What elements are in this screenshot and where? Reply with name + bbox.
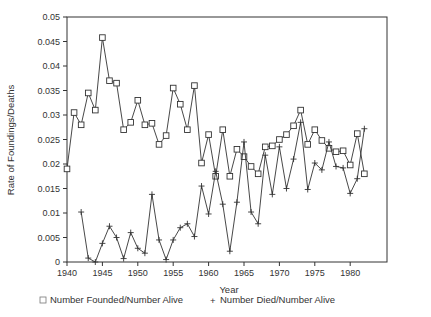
- legend-label-founded: Number Founded/Number Alive: [50, 294, 183, 305]
- square-marker-icon: [128, 120, 134, 126]
- plus-marker-icon: [340, 165, 346, 171]
- plus-marker-icon: [128, 230, 134, 236]
- x-tick-label: 1965: [234, 268, 254, 278]
- x-tick-label: 1970: [269, 268, 289, 278]
- square-marker-icon: [135, 98, 141, 104]
- plus-marker-icon: [135, 245, 141, 251]
- square-marker-icon: [227, 173, 233, 179]
- square-marker-icon: [93, 107, 99, 113]
- square-marker-icon: [234, 147, 240, 153]
- y-tick-label: 0.03: [42, 110, 60, 120]
- y-axis: 00.0050.010.0150.020.0250.030.0350.040.0…: [37, 12, 67, 267]
- y-tick-label: 0.04: [42, 61, 60, 71]
- plus-marker-icon: [347, 190, 353, 196]
- square-marker-icon: [319, 138, 325, 144]
- plus-marker-icon: [121, 256, 127, 262]
- plus-marker-icon: [354, 176, 360, 182]
- square-marker-icon: [312, 127, 318, 133]
- x-tick-label: 1940: [57, 268, 77, 278]
- square-marker-icon: [291, 123, 297, 129]
- plus-marker-icon: [255, 221, 261, 227]
- square-marker-icon: [121, 127, 127, 133]
- plus-marker-icon: [227, 248, 233, 254]
- y-axis-label: Rate of Foundings/Deaths: [5, 85, 16, 196]
- plus-marker-icon: [156, 237, 162, 243]
- square-marker-icon: [284, 132, 290, 138]
- square-marker-icon: [149, 121, 155, 127]
- plus-marker-icon: [333, 163, 339, 169]
- plus-marker-icon: [276, 144, 282, 150]
- plus-marker-icon: [184, 221, 190, 227]
- y-tick-label: 0.025: [37, 135, 60, 145]
- square-marker-icon: [163, 133, 169, 139]
- square-marker-icon: [64, 166, 70, 172]
- plus-marker-icon: [106, 223, 112, 229]
- series-founded: [64, 35, 367, 179]
- square-marker-icon: [206, 132, 212, 138]
- x-tick-label: 1950: [128, 268, 148, 278]
- square-marker-icon: [354, 131, 360, 137]
- square-marker-icon: [347, 162, 353, 168]
- square-marker-icon: [333, 149, 339, 155]
- plus-marker-icon: [149, 191, 155, 197]
- plus-marker-icon: [99, 240, 105, 246]
- square-marker-icon: [78, 122, 84, 128]
- x-tick-label: 1945: [92, 268, 112, 278]
- plus-marker-icon: [142, 250, 148, 256]
- y-tick-label: 0.035: [37, 86, 60, 96]
- square-marker-icon: [71, 110, 77, 116]
- x-tick-label: 1960: [199, 268, 219, 278]
- square-marker-icon: [248, 164, 254, 170]
- legend-plus-icon: +: [210, 295, 216, 306]
- square-marker-icon: [177, 101, 183, 107]
- plus-marker-icon: [114, 235, 120, 241]
- square-marker-icon: [340, 148, 346, 154]
- plus-marker-icon: [85, 255, 91, 261]
- plus-marker-icon: [248, 209, 254, 215]
- square-marker-icon: [262, 144, 268, 150]
- y-tick-label: 0.005: [37, 233, 60, 243]
- plus-marker-icon: [206, 211, 212, 217]
- plus-marker-icon: [326, 139, 332, 145]
- line-chart: 00.0050.010.0150.020.0250.030.0350.040.0…: [0, 0, 431, 317]
- plus-marker-icon: [220, 201, 226, 207]
- square-marker-icon: [170, 85, 176, 91]
- plot-frame: [67, 17, 387, 262]
- square-marker-icon: [362, 171, 368, 177]
- square-marker-icon: [85, 90, 91, 96]
- plus-marker-icon: [170, 237, 176, 243]
- series-line: [67, 38, 364, 177]
- plus-marker-icon: [177, 225, 183, 231]
- x-tick-label: 1975: [305, 268, 325, 278]
- y-tick-label: 0: [55, 257, 60, 267]
- square-marker-icon: [298, 107, 304, 113]
- square-marker-icon: [100, 35, 106, 41]
- square-marker-icon: [199, 160, 205, 166]
- square-marker-icon: [114, 80, 120, 86]
- y-tick-label: 0.02: [42, 159, 60, 169]
- square-marker-icon: [277, 137, 283, 143]
- x-tick-label: 1955: [163, 268, 183, 278]
- x-tick-label: 1980: [340, 268, 360, 278]
- square-marker-icon: [255, 171, 261, 177]
- y-tick-label: 0.045: [37, 37, 60, 47]
- plus-marker-icon: [305, 186, 311, 192]
- square-marker-icon: [220, 127, 226, 133]
- square-marker-icon: [107, 78, 113, 84]
- plus-marker-icon: [283, 186, 289, 192]
- y-tick-label: 0.01: [42, 208, 60, 218]
- legend: Number Founded/Number Alive + Number Die…: [40, 294, 335, 306]
- square-marker-icon: [192, 83, 198, 89]
- plus-marker-icon: [361, 126, 367, 132]
- plus-marker-icon: [191, 234, 197, 240]
- x-axis: 194019451950195519601965197019751980: [57, 262, 360, 278]
- plus-marker-icon: [92, 259, 98, 265]
- plus-marker-icon: [234, 199, 240, 205]
- legend-label-died: Number Died/Number Alive: [220, 294, 335, 305]
- plus-marker-icon: [78, 209, 84, 215]
- square-marker-icon: [185, 127, 191, 133]
- square-marker-icon: [142, 122, 148, 128]
- y-tick-label: 0.05: [42, 12, 60, 22]
- square-marker-icon: [305, 142, 311, 148]
- plus-marker-icon: [199, 183, 205, 189]
